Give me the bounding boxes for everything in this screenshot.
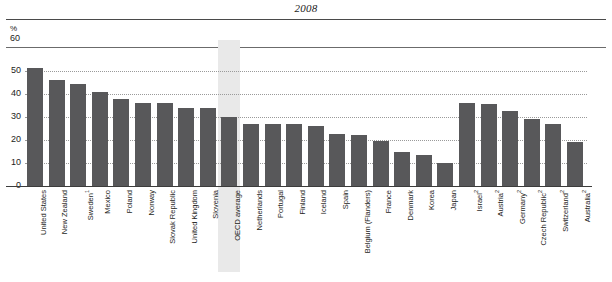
category-label: Belgium (Flanders) [363,190,373,253]
category-label: Norway [147,190,157,215]
category-label: Switzerland2 [557,190,571,232]
category-label: Korea [427,190,437,210]
bar[interactable] [70,84,86,186]
bar[interactable] [481,104,497,186]
category-label: Mexico [103,190,113,214]
top-rule [6,19,606,20]
bar[interactable] [416,155,432,186]
category-label: Finland [298,190,308,215]
y-tick-label-0: 0 [1,180,21,190]
bar[interactable] [265,124,281,186]
bar[interactable] [308,126,324,186]
bar[interactable] [394,152,410,187]
bar[interactable] [27,68,43,186]
bar[interactable] [459,103,475,186]
category-label: Spain [341,190,351,209]
category-label: Australia2 [579,190,593,222]
plot-area: 01020304050 [25,48,587,186]
bar[interactable] [135,103,151,186]
y-tick-label-10: 10 [1,157,21,167]
category-label: Germany2 [514,190,528,224]
bar[interactable] [286,124,302,186]
category-label: Austria2 [492,190,506,216]
bar[interactable] [545,124,561,186]
bar[interactable] [329,134,345,186]
gridline-40 [25,94,587,95]
bar[interactable] [567,142,583,186]
category-label: Japan [449,190,459,210]
y-tick-label-20: 20 [1,134,21,144]
x-axis-baseline [6,186,592,187]
bar[interactable] [157,103,173,186]
y-axis-max-label: 60 [10,33,20,43]
bar[interactable] [243,124,259,186]
category-label: Israel2 [471,190,485,211]
bar[interactable] [221,117,237,186]
category-label: OECD average [233,190,243,241]
bar[interactable] [373,141,389,186]
y-tick-label-40: 40 [1,88,21,98]
category-label: New Zealand [60,190,70,234]
bar[interactable] [524,119,540,186]
category-label: Czech Republic2 [535,190,549,246]
category-label: Iceland [319,190,329,214]
bar[interactable] [200,108,216,186]
category-label: Sweden1 [82,190,96,220]
category-label: Slovenia [211,190,221,219]
bar[interactable] [502,111,518,186]
category-label: United Kingdom [190,190,200,243]
category-label: United States [39,190,49,235]
y-tick-label-30: 30 [1,111,21,121]
bar[interactable] [113,99,129,186]
bar[interactable] [437,163,453,186]
bar[interactable] [351,135,367,186]
x-axis-category-labels: United StatesNew ZealandSweden1MexicoPol… [25,190,587,282]
y-tick-label-50: 50 [1,65,21,75]
category-label: Netherlands [255,190,265,230]
bar[interactable] [178,108,194,186]
category-label: Poland [125,190,135,213]
category-label: Slovak Republic [168,190,178,244]
bar[interactable] [92,92,108,186]
gridline-50 [25,71,587,72]
bar[interactable] [49,80,65,186]
category-label: Denmark [406,190,416,220]
y-axis-unit-label: % [10,24,17,33]
chart-title: 2008 [0,2,612,14]
category-label: Portugal [276,190,286,218]
category-label: France [384,190,394,213]
